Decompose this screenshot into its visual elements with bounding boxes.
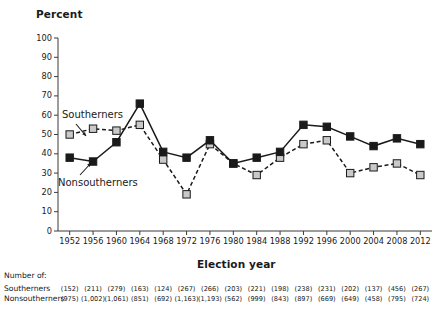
- data-point-marker: [183, 191, 190, 198]
- data-point-marker: [183, 154, 190, 161]
- data-point-marker: [370, 142, 377, 149]
- table-header-label: Number of:: [4, 271, 47, 280]
- data-point-marker: [417, 171, 424, 178]
- data-point-marker: [136, 121, 143, 128]
- data-point-marker: [393, 135, 400, 142]
- data-point-marker: [370, 164, 377, 171]
- table-cell: (724): [405, 295, 435, 303]
- data-point-marker: [346, 169, 353, 176]
- data-point-marker: [253, 154, 260, 161]
- figure-root: Percent 1009080706050403020100 195219561…: [0, 0, 442, 311]
- data-point-marker: [66, 131, 73, 138]
- data-point-marker: [300, 140, 307, 147]
- data-point-marker: [346, 133, 353, 140]
- series-label-nonsoutherners: Nonsoutherners: [58, 177, 138, 188]
- data-point-marker: [253, 171, 260, 178]
- x-axis-title: Election year: [197, 258, 276, 270]
- data-point-marker: [89, 125, 96, 132]
- data-point-marker: [300, 121, 307, 128]
- data-point-marker: [417, 140, 424, 147]
- data-point-marker: [136, 100, 143, 107]
- data-point-marker: [393, 160, 400, 167]
- data-point-marker: [323, 123, 330, 130]
- data-point-marker: [113, 127, 120, 134]
- data-point-marker: [113, 139, 120, 146]
- series-label-southerners: Southerners: [62, 109, 123, 120]
- data-point-marker: [159, 156, 166, 163]
- annotation-arrow-nonsoutherners: [80, 163, 91, 175]
- annotation-arrow-southerners: [76, 124, 86, 136]
- data-point-marker: [66, 154, 73, 161]
- table-row-label-southerners: Southerners: [4, 284, 50, 293]
- data-point-marker: [276, 148, 283, 155]
- data-point-marker: [230, 160, 237, 167]
- data-point-marker: [323, 137, 330, 144]
- data-point-marker: [159, 148, 166, 155]
- table-cell: (267): [405, 285, 435, 293]
- data-point-marker: [206, 137, 213, 144]
